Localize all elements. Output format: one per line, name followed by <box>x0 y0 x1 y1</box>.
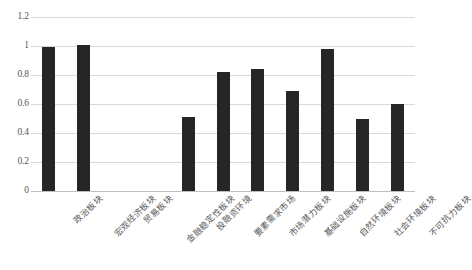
bar <box>321 49 334 191</box>
y-tick-label: 0.4 <box>3 128 29 138</box>
y-tick-label: 1 <box>3 41 29 51</box>
bar <box>77 45 90 191</box>
y-axis-labels: 00.20.40.60.811.2 <box>0 17 29 191</box>
bar <box>217 72 230 191</box>
bar <box>42 47 55 191</box>
y-tick-label: 0.6 <box>3 99 29 109</box>
y-tick-label: 1.2 <box>3 12 29 22</box>
y-tick-label: 0.8 <box>3 70 29 80</box>
bar <box>286 91 299 191</box>
x-axis-labels: 政治板块宏观经济板块贸易板块金融稳定性板块投融资环境要素需求市场市场潜力板块基础… <box>31 192 415 270</box>
plot-area <box>31 17 415 191</box>
bar <box>182 117 195 191</box>
y-tick-label: 0 <box>3 186 29 196</box>
bar <box>251 69 264 191</box>
bar <box>391 104 404 191</box>
bar <box>356 119 369 192</box>
y-tick-label: 0.2 <box>3 157 29 167</box>
bars-layer <box>31 17 415 191</box>
x-tick-label: 政治板块 <box>73 194 105 226</box>
